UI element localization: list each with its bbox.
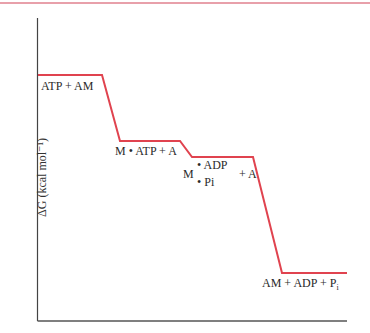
y-axis-label: ΔG (kcal mol⁻¹) — [35, 118, 50, 238]
state3-top: • ADP — [197, 158, 228, 173]
state3-suffix: + A — [239, 167, 257, 182]
state-label-m-adp-pi-a: M • ADP • Pi + A — [183, 158, 273, 192]
state-label-am-adp-pi: AM + ADP + Pi — [262, 276, 339, 292]
state4-subscript: i — [336, 283, 338, 292]
state4-text: AM + ADP + P — [262, 276, 336, 290]
state3-bottom: • Pi — [197, 175, 214, 190]
state-label-atp-am: ATP + AM — [41, 79, 93, 94]
state3-prefix: M — [183, 167, 194, 182]
state-label-m-atp-a: M • ATP + A — [115, 144, 177, 159]
